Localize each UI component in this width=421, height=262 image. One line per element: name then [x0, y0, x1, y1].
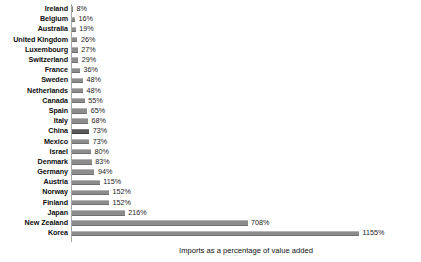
- bar: [71, 231, 359, 236]
- bar-track: 68%: [71, 116, 421, 126]
- category-label: United Kingdom: [0, 36, 71, 44]
- bar-value-label: 36%: [80, 66, 98, 74]
- bar-value-label: 83%: [92, 158, 110, 166]
- bar: [71, 180, 100, 185]
- bar-track: 80%: [71, 147, 421, 157]
- bar-value-label: 48%: [83, 87, 101, 95]
- category-label: Australia: [0, 25, 71, 33]
- category-label: Belgium: [0, 15, 71, 23]
- bar-row: Denmark83%: [0, 157, 421, 167]
- bar-row: Germany94%: [0, 167, 421, 177]
- bar-value-label: 94%: [94, 168, 112, 176]
- bar-value-label: 216%: [125, 209, 147, 217]
- bar-value-label: 26%: [77, 36, 95, 44]
- bar-chart: Ireland8%Belgium16%Australia19%United Ki…: [0, 0, 421, 262]
- bar-value-label: 80%: [91, 148, 109, 156]
- bar: [71, 149, 91, 154]
- bar-track: 94%: [71, 167, 421, 177]
- bar-row: Australia19%: [0, 24, 421, 34]
- bar-row: Switzerland29%: [0, 55, 421, 65]
- category-label: Netherlands: [0, 87, 71, 95]
- category-label: Germany: [0, 168, 71, 176]
- category-label: Italy: [0, 117, 71, 125]
- bar-row: Italy68%: [0, 116, 421, 126]
- category-label: Israel: [0, 148, 71, 156]
- bar-track: 65%: [71, 106, 421, 116]
- category-label: Norway: [0, 188, 71, 196]
- bar-row: Sweden48%: [0, 75, 421, 85]
- bar-value-label: 68%: [88, 117, 106, 125]
- bar-track: 708%: [71, 218, 421, 228]
- bar: [71, 98, 85, 103]
- bar-row: Canada55%: [0, 96, 421, 106]
- bar-track: 83%: [71, 157, 421, 167]
- category-label: France: [0, 66, 71, 74]
- bar-row: Luxembourg27%: [0, 45, 421, 55]
- bar-row: Israel80%: [0, 147, 421, 157]
- bar-track: 55%: [71, 96, 421, 106]
- bar-value-label: 1155%: [359, 229, 384, 237]
- category-label: Luxembourg: [0, 46, 71, 54]
- bar-row: Netherlands48%: [0, 86, 421, 96]
- bar-value-label: 65%: [87, 107, 105, 115]
- category-label: Sweden: [0, 76, 71, 84]
- bar-row: China73%: [0, 126, 421, 136]
- bar-row: Norway152%: [0, 187, 421, 197]
- bar: [71, 159, 92, 164]
- bar: [71, 129, 89, 134]
- bar-row: New Zealand708%: [0, 218, 421, 228]
- bar-track: 48%: [71, 86, 421, 96]
- bar-row: Mexico73%: [0, 136, 421, 146]
- category-label: Canada: [0, 97, 71, 105]
- category-label: Japan: [0, 209, 71, 217]
- bar-track: 27%: [71, 45, 421, 55]
- bar-row: United Kingdom26%: [0, 35, 421, 45]
- bar: [71, 190, 109, 195]
- bar: [71, 210, 125, 215]
- bar-track: 16%: [71, 14, 421, 24]
- category-label: Denmark: [0, 158, 71, 166]
- bar: [71, 68, 80, 73]
- bar: [71, 169, 94, 174]
- plot-area: Ireland8%Belgium16%Australia19%United Ki…: [0, 4, 421, 242]
- bar-value-label: 16%: [75, 15, 93, 23]
- bar: [71, 118, 88, 123]
- bar-track: 29%: [71, 55, 421, 65]
- bar: [71, 57, 78, 62]
- bar-value-label: 55%: [85, 97, 103, 105]
- bar-value-label: 73%: [89, 138, 107, 146]
- bar-track: 152%: [71, 198, 421, 208]
- bar-value-label: 73%: [89, 127, 107, 135]
- bar-row: Austria115%: [0, 177, 421, 187]
- bar-row: Japan216%: [0, 208, 421, 218]
- bar: [71, 139, 89, 144]
- bar-value-label: 8%: [73, 5, 87, 13]
- bar-track: 115%: [71, 177, 421, 187]
- bar: [71, 108, 87, 113]
- bar-track: 73%: [71, 136, 421, 146]
- bar-track: 36%: [71, 65, 421, 75]
- bar-row: Belgium16%: [0, 14, 421, 24]
- bar: [71, 47, 78, 52]
- category-label: Austria: [0, 178, 71, 186]
- bar-row: Korea1155%: [0, 228, 421, 238]
- bar: [71, 78, 83, 83]
- category-label: Korea: [0, 229, 71, 237]
- bar: [71, 220, 248, 225]
- bar-row: Spain65%: [0, 106, 421, 116]
- category-label: Spain: [0, 107, 71, 115]
- x-axis-title: Imports as a percentage of value added: [71, 246, 421, 256]
- bar-value-label: 152%: [109, 199, 131, 207]
- bar: [71, 200, 109, 205]
- bar-value-label: 19%: [76, 25, 94, 33]
- bar-value-label: 48%: [83, 76, 101, 84]
- bar-row: France36%: [0, 65, 421, 75]
- bar-row: Finland152%: [0, 198, 421, 208]
- category-label: China: [0, 127, 71, 135]
- bar-value-label: 115%: [100, 178, 121, 186]
- bar-track: 1155%: [71, 228, 421, 238]
- bar-value-label: 27%: [78, 46, 96, 54]
- bar-value-label: 152%: [109, 188, 131, 196]
- category-label: Switzerland: [0, 56, 71, 64]
- category-label: Ireland: [0, 5, 71, 13]
